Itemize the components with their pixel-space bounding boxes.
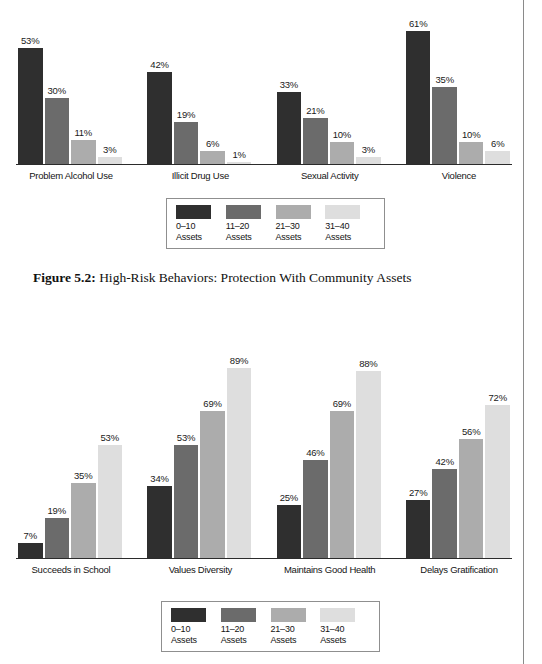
bar-group: 42%19%6%1% — [147, 0, 253, 164]
bar-value-label: 53% — [21, 35, 39, 46]
bar-slot: 53% — [174, 330, 199, 558]
bar-value-label: 42% — [150, 59, 168, 70]
bar-value-label: 42% — [436, 456, 454, 467]
bar-value-label: 19% — [177, 109, 195, 120]
bars: 61%35%10%6% — [406, 0, 512, 164]
bar-group: 53%30%11%3% — [18, 0, 124, 164]
chart-thriving-indicators: 7%19%35%53%34%53%69%89%25%46%69%88%27%42… — [0, 330, 520, 580]
bar-slot: 42% — [147, 0, 172, 164]
bar — [432, 469, 457, 558]
bar — [200, 151, 225, 164]
bar — [147, 72, 172, 164]
bar — [227, 368, 252, 558]
legend-swatch — [276, 205, 311, 219]
bar-slot: 61% — [406, 0, 431, 164]
bar-group: 25%46%69%88% — [277, 330, 383, 558]
bar-slot: 88% — [356, 330, 381, 558]
bar-value-label: 34% — [150, 473, 168, 484]
bar — [71, 140, 96, 164]
bar-slot: 19% — [45, 330, 70, 558]
category-label: Succeeds in School — [18, 564, 124, 575]
category-label: Violence — [406, 170, 512, 181]
category-label: Values Diversity — [147, 564, 253, 575]
legend-swatch — [176, 205, 211, 219]
legend-unit: Assets — [221, 635, 247, 646]
bar — [406, 500, 431, 558]
bar — [98, 445, 123, 558]
legend-unit: Assets — [325, 232, 351, 243]
legend-range: 11–20 — [226, 221, 249, 232]
legend-range: 31–40 — [325, 221, 349, 232]
bar-value-label: 25% — [280, 492, 298, 503]
bar-slot: 56% — [459, 330, 484, 558]
bar-slot: 34% — [147, 330, 172, 558]
legend-swatch — [221, 608, 256, 622]
bar — [174, 122, 199, 164]
legend-item: 31–40Assets — [320, 608, 370, 646]
bar — [303, 118, 328, 164]
bar-slot: 1% — [227, 0, 252, 164]
bar — [406, 31, 431, 164]
legend-range: 11–20 — [221, 624, 244, 635]
figure-number: Figure 5.2: — [33, 270, 96, 285]
category-label: Problem Alcohol Use — [18, 170, 124, 181]
chart-high-risk-behaviors: 53%30%11%3%42%19%6%1%33%21%10%3%61%35%10… — [0, 0, 520, 190]
bar-slot: 21% — [303, 0, 328, 164]
legend-unit: Assets — [226, 232, 252, 243]
legend-item: 11–20Assets — [221, 608, 271, 646]
bar — [147, 486, 172, 558]
bar-slot: 19% — [174, 0, 199, 164]
legend-item: 11–20Assets — [226, 205, 276, 243]
bar-slot: 89% — [227, 330, 252, 558]
bar — [330, 411, 355, 558]
bars: 27%42%56%72% — [406, 330, 512, 558]
legend-unit: Assets — [271, 635, 297, 646]
page-edge-rule — [523, 0, 524, 664]
bar-slot: 69% — [200, 330, 225, 558]
bar-value-label: 27% — [409, 487, 427, 498]
figure-caption-text: High-Risk Behaviors: Protection With Com… — [96, 270, 412, 285]
bar-slot: 27% — [406, 330, 431, 558]
category-labels: Succeeds in SchoolValues DiversityMainta… — [18, 564, 512, 575]
bar-slot: 6% — [485, 0, 510, 164]
bar-value-label: 33% — [280, 79, 298, 90]
legend-item: 21–30Assets — [276, 205, 326, 243]
bar — [459, 142, 484, 164]
legend-unit: Assets — [176, 232, 202, 243]
bar-value-label: 61% — [409, 18, 427, 29]
legend-swatch — [226, 205, 261, 219]
bar-slot: 6% — [200, 0, 225, 164]
bars: 25%46%69%88% — [277, 330, 383, 558]
bar-value-label: 88% — [359, 358, 377, 369]
bar-slot: 35% — [432, 0, 457, 164]
bar-slot: 46% — [303, 330, 328, 558]
category-label: Delays Gratification — [406, 564, 512, 575]
bar-value-label: 10% — [462, 129, 480, 140]
bar-value-label: 1% — [232, 149, 245, 160]
bar-slot: 10% — [330, 0, 355, 164]
bar — [277, 92, 302, 164]
bar-groups: 53%30%11%3%42%19%6%1%33%21%10%3%61%35%10… — [18, 0, 512, 164]
legend-item: 0–10Assets — [171, 608, 221, 646]
bar-slot: 10% — [459, 0, 484, 164]
category-label: Maintains Good Health — [277, 564, 383, 575]
legend-range: 0–10 — [171, 624, 190, 635]
bar — [356, 371, 381, 559]
bar-value-label: 89% — [230, 355, 248, 366]
bar — [18, 48, 43, 164]
bar-slot: 53% — [18, 0, 43, 164]
bar-value-label: 35% — [74, 470, 92, 481]
bar — [174, 445, 199, 558]
legend-item: 31–40Assets — [325, 205, 375, 243]
bar-slot: 72% — [485, 330, 510, 558]
bar-slot: 7% — [18, 330, 43, 558]
bar-group: 33%21%10%3% — [277, 0, 383, 164]
bar-value-label: 10% — [333, 129, 351, 140]
chart-legend: 0–10Assets11–20Assets21–30Assets31–40Ass… — [161, 601, 380, 652]
bar-value-label: 6% — [491, 138, 504, 149]
bar-value-label: 6% — [206, 138, 219, 149]
bar-group: 61%35%10%6% — [406, 0, 512, 164]
bar-slot: 33% — [277, 0, 302, 164]
legend-range: 0–10 — [176, 221, 195, 232]
bar-slot: 69% — [330, 330, 355, 558]
